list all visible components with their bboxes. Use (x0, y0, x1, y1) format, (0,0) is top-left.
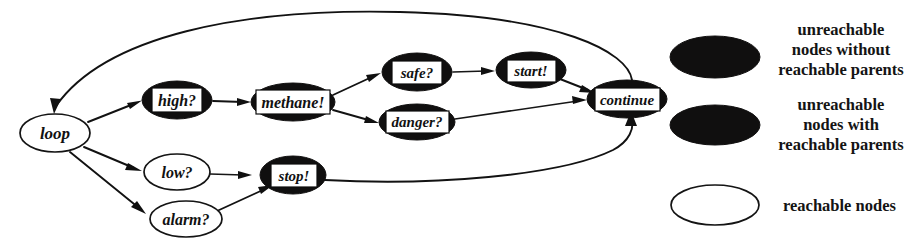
edge-methane-safe (333, 73, 381, 95)
legend-item-reachable: reachable nodes (671, 185, 896, 225)
edge-methane-danger (333, 110, 379, 123)
node-methane-label: methane! (261, 94, 324, 111)
legend-line: reachable nodes (783, 196, 896, 215)
figure-container: loop high? methane! safe? (0, 0, 907, 244)
node-high[interactable]: high? (142, 81, 212, 119)
node-layer: loop high? methane! safe? (20, 52, 667, 237)
legend-line: unreachable (798, 20, 885, 39)
edge-loop-alarm (70, 152, 146, 214)
node-start[interactable]: start! (496, 52, 566, 88)
legend: unreachable nodes without reachable pare… (670, 20, 904, 225)
node-loop[interactable]: loop (20, 114, 90, 152)
legend-line: nodes without (792, 40, 891, 59)
edge-low-stop (210, 171, 252, 179)
legend-line: unreachable (798, 95, 885, 114)
edge-alarm-stop (217, 185, 273, 211)
node-continue[interactable]: continue (587, 80, 667, 118)
node-alarm[interactable]: alarm? (150, 201, 222, 237)
legend-item-unreachable-with-parents: unreachable nodes with reachable parents (670, 95, 904, 154)
legend-line: nodes with (803, 115, 879, 134)
node-methane[interactable]: methane! (251, 83, 335, 121)
legend-item-unreachable-without-parents: unreachable nodes without reachable pare… (670, 20, 904, 79)
legend-swatch-open-ellipse (671, 185, 759, 225)
edge-layer (50, 12, 637, 214)
node-loop-label: loop (40, 124, 70, 143)
node-low[interactable]: low? (144, 154, 210, 190)
edge-loop-low (84, 147, 142, 171)
edge-high-methane (213, 98, 251, 106)
node-safe[interactable]: safe? (382, 53, 452, 91)
node-continue-label: continue (600, 92, 655, 108)
legend-line: reachable parents (778, 60, 904, 79)
edge-safe-start (453, 67, 495, 75)
legend-swatch-filled-ellipse (670, 105, 760, 145)
node-stop-label: stop! (278, 168, 310, 184)
legend-swatch-filled-ellipse (670, 36, 760, 78)
reachability-diagram: loop high? methane! safe? (0, 0, 907, 244)
node-danger[interactable]: danger? (379, 104, 455, 140)
node-high-label: high? (158, 92, 196, 110)
node-low-label: low? (161, 164, 192, 181)
edge-danger-continue (455, 96, 587, 119)
node-safe-label: safe? (400, 65, 434, 81)
node-alarm-label: alarm? (162, 211, 209, 228)
edge-start-continue (560, 79, 595, 93)
node-stop[interactable]: stop! (260, 156, 326, 194)
node-start-label: start! (513, 63, 547, 79)
node-danger-label: danger? (392, 114, 443, 130)
edge-loop-high (88, 101, 142, 123)
legend-line: reachable parents (778, 135, 904, 154)
